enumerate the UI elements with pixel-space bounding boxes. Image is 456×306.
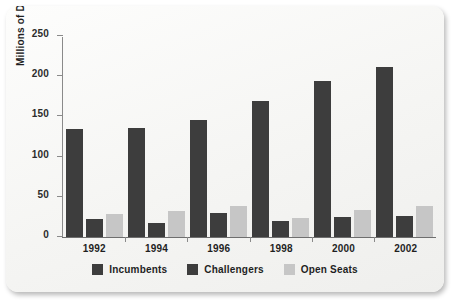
bar-incumbents-2000[interactable] [314,81,331,237]
bar-group-2000 [312,31,374,237]
bar-open-seats-1992[interactable] [106,214,123,237]
bar-open-seats-2000[interactable] [354,210,371,237]
legend-label: Open Seats [301,264,358,275]
bar-challengers-1994[interactable] [148,223,165,237]
x-axis-tick [312,237,313,242]
bar-open-seats-2002[interactable] [416,206,433,237]
x-axis-label-1992: 1992 [63,243,125,254]
plot-area: 050100150200250 [62,31,436,238]
bar-group-2002 [374,31,436,237]
chart-legend: IncumbentsChallengersOpen Seats [6,264,444,275]
x-axis-labels: 199219941996199820002002 [63,243,437,254]
y-axis-tick-label: 0 [43,229,49,240]
y-axis-tick-label: 50 [37,189,49,200]
y-axis-tick-label: 250 [32,28,49,39]
y-axis-tick-label: 150 [32,108,49,119]
legend-swatch-icon [187,264,198,275]
y-axis-tick-label: 100 [32,149,49,160]
bar-open-seats-1996[interactable] [230,206,247,237]
x-axis-tick [250,237,251,242]
bar-challengers-1996[interactable] [210,213,227,237]
bar-open-seats-1994[interactable] [168,211,185,237]
legend-item-incumbents[interactable]: Incumbents [92,264,167,275]
bar-group-1992 [63,31,125,237]
legend-swatch-icon [284,264,295,275]
legend-label: Challengers [204,264,263,275]
bar-incumbents-1998[interactable] [252,101,269,237]
x-axis-label-2002: 2002 [375,243,437,254]
bar-challengers-2002[interactable] [396,216,413,237]
bar-group-1994 [125,31,187,237]
x-axis-label-1996: 1996 [188,243,250,254]
legend-item-open-seats[interactable]: Open Seats [284,264,358,275]
bar-incumbents-1992[interactable] [66,129,83,237]
legend-item-challengers[interactable]: Challengers [187,264,263,275]
x-axis-tick [374,237,375,242]
x-axis-tick [187,237,188,242]
bar-challengers-1992[interactable] [86,219,103,237]
bar-group-1996 [187,31,249,237]
chart-page: Millions of Dollars 050100150200250 1992… [0,0,456,306]
y-axis-tick-label: 200 [32,68,49,79]
y-axis-title: Millions of Dollars [15,6,26,66]
bar-incumbents-2002[interactable] [376,67,393,237]
bar-challengers-1998[interactable] [272,221,289,237]
x-axis-tick [125,237,126,242]
bar-incumbents-1996[interactable] [190,120,207,237]
bar-incumbents-1994[interactable] [128,128,145,237]
chart-card: Millions of Dollars 050100150200250 1992… [6,6,444,292]
bar-challengers-2000[interactable] [334,217,351,237]
x-axis-label-2000: 2000 [312,243,374,254]
x-axis-label-1994: 1994 [125,243,187,254]
bar-groups [63,31,436,237]
x-axis-label-1998: 1998 [250,243,312,254]
bar-open-seats-1998[interactable] [292,218,309,237]
legend-swatch-icon [92,264,103,275]
legend-label: Incumbents [109,264,167,275]
bar-group-1998 [250,31,312,237]
